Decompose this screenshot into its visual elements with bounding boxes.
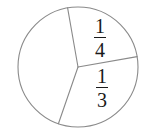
fraction-bar-icon: [96, 87, 108, 88]
fraction-denominator: 3: [96, 89, 108, 110]
fraction-one-fourth: 1 4: [94, 16, 106, 61]
pie-chart-svg: [0, 0, 153, 136]
sector-label-third: 1 3: [89, 66, 115, 111]
fraction-bar-icon: [94, 37, 106, 38]
fraction-denominator: 4: [94, 39, 106, 60]
fraction-one-third: 1 3: [96, 66, 108, 111]
circle-fraction-figure: 1 4 1 3: [0, 0, 153, 136]
fraction-numerator: 1: [96, 66, 108, 87]
sector-label-quarter: 1 4: [87, 16, 113, 61]
fraction-numerator: 1: [94, 16, 106, 37]
